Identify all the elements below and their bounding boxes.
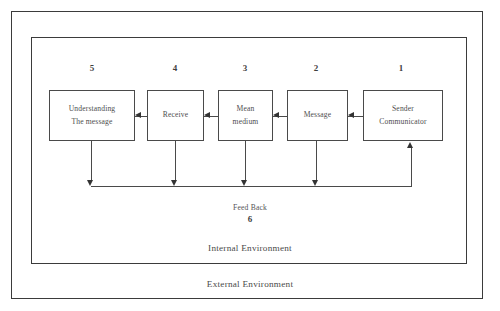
stage-box-5-line1: Understanding bbox=[69, 103, 116, 116]
feedback-drop-line-4 bbox=[175, 141, 176, 180]
feedback-drop-line-3 bbox=[245, 141, 246, 180]
stage-number-1: 1 bbox=[391, 63, 411, 73]
stage-number-2: 2 bbox=[306, 63, 326, 73]
flow-arrowhead-3-to-4 bbox=[204, 112, 210, 118]
stage-box-receive[interactable]: Receive bbox=[147, 90, 204, 141]
flow-arrowhead-1-to-2 bbox=[348, 112, 354, 118]
feedback-label: Feed Back bbox=[0, 203, 500, 212]
stage-box-5-line2: The message bbox=[71, 116, 112, 129]
stage-number-5: 5 bbox=[82, 63, 102, 73]
stage-box-1-line2: Communicator bbox=[379, 116, 426, 129]
diagram-canvas: 5 4 3 2 1 Understanding The message Rece… bbox=[0, 0, 500, 311]
external-environment-label: External Environment bbox=[0, 279, 500, 289]
stage-number-3: 3 bbox=[235, 63, 255, 73]
stage-box-1-line1: Sender bbox=[392, 103, 414, 116]
stage-box-sender-communicator[interactable]: Sender Communicator bbox=[363, 90, 443, 141]
stage-box-message[interactable]: Message bbox=[287, 90, 348, 141]
stage-number-4: 4 bbox=[165, 63, 185, 73]
internal-environment-label: Internal Environment bbox=[0, 243, 500, 253]
stage-box-2-line1: Message bbox=[304, 109, 332, 122]
feedback-number: 6 bbox=[0, 214, 500, 224]
stage-box-3-line2: medium bbox=[233, 116, 259, 129]
stage-box-3-line1: Mean bbox=[237, 103, 255, 116]
stage-box-4-line1: Receive bbox=[163, 109, 189, 122]
stage-box-understanding-the-message[interactable]: Understanding The message bbox=[49, 90, 135, 141]
flow-arrowhead-4-to-5 bbox=[135, 112, 141, 118]
feedback-return-arrowhead bbox=[407, 142, 413, 148]
feedback-drop-line-5 bbox=[91, 141, 92, 180]
feedback-drop-line-2 bbox=[316, 141, 317, 180]
stage-box-mean-medium[interactable]: Mean medium bbox=[218, 90, 273, 141]
flow-arrowhead-2-to-3 bbox=[273, 112, 279, 118]
feedback-bus-line bbox=[91, 186, 412, 187]
feedback-return-line bbox=[411, 148, 412, 186]
